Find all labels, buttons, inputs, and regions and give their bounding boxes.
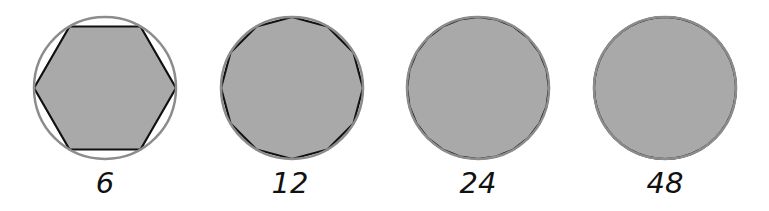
label-48-sides: 48 (615, 166, 715, 200)
polygon-48-sides (594, 17, 736, 159)
polygon-6-sides (34, 17, 176, 159)
polygon-12-sides (221, 17, 363, 159)
polygon-24-sides (407, 17, 549, 159)
label-12-sides: 12 (240, 166, 340, 200)
label-6-sides: 6 (55, 166, 155, 200)
label-24-sides: 24 (428, 166, 528, 200)
inscribed-polygon (34, 27, 176, 150)
